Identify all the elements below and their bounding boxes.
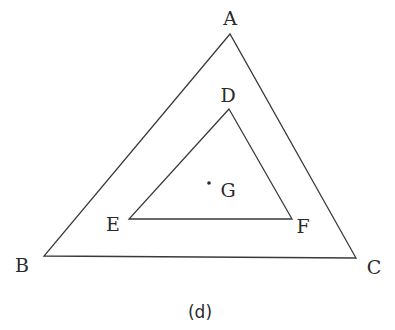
vertex-label-c: C [367, 256, 382, 278]
nested-triangles-diagram: A B C D E F G (d) [0, 0, 395, 330]
figure-caption: (d) [188, 302, 212, 322]
vertex-label-e: E [106, 213, 120, 235]
vertex-label-a: A [222, 7, 237, 29]
vertex-label-b: B [15, 254, 29, 276]
point-g-dot [207, 181, 211, 185]
point-label-g: G [220, 179, 235, 201]
vertex-label-f: F [296, 215, 309, 237]
vertex-label-d: D [220, 84, 235, 106]
